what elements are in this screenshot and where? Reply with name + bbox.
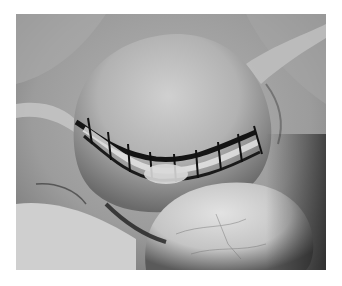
- surgical-photograph: [16, 14, 326, 270]
- photo-canvas: [16, 14, 326, 270]
